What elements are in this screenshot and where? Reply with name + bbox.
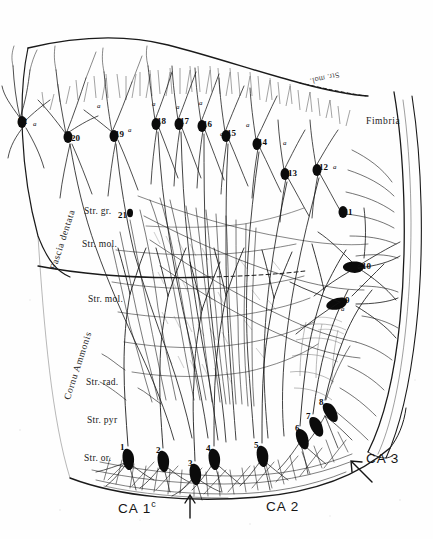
layer-label-str-gr: Str. gr. bbox=[84, 207, 111, 217]
cell-label-22: 22 bbox=[18, 117, 27, 126]
axon-mark-a: a bbox=[220, 131, 224, 138]
dentate-molecular-dendrites bbox=[2, 46, 341, 222]
mossy-fiber-bundle bbox=[70, 132, 319, 442]
cell-label-17: 17 bbox=[180, 117, 189, 126]
central-fiber-plexus bbox=[112, 196, 368, 406]
cell-label-15: 15 bbox=[227, 129, 236, 138]
cell-label-14: 14 bbox=[258, 138, 267, 147]
cell-label-19: 19 bbox=[115, 130, 124, 139]
cell-label-21: 21 bbox=[118, 211, 127, 220]
cell-label-18: 18 bbox=[157, 117, 166, 126]
cell-label-4: 4 bbox=[206, 444, 211, 453]
cell-label-3: 3 bbox=[188, 459, 193, 468]
cell-label-10: 10 bbox=[362, 262, 371, 271]
axon-mark-a: a bbox=[283, 140, 287, 147]
fimbria-fibers bbox=[334, 150, 398, 440]
layer-label-str-rad: Str. rad. bbox=[86, 378, 119, 388]
axon-mark-a: a bbox=[97, 103, 101, 110]
apical-tuft-fibers bbox=[42, 66, 350, 126]
hippocampus-diagram: Fascia dentata Cornu Ammonis Fimbria Str… bbox=[0, 0, 433, 539]
cell-label-13: 13 bbox=[288, 169, 297, 178]
cell-label-8: 8 bbox=[319, 398, 324, 407]
cell-label-1: 1 bbox=[120, 443, 125, 452]
axon-mark-a: a bbox=[33, 121, 37, 128]
axon-mark-a: a bbox=[333, 164, 337, 171]
cell-label-20: 20 bbox=[71, 134, 80, 143]
axon-mark-a: a bbox=[176, 104, 180, 111]
axon-mark-a: a bbox=[341, 306, 345, 313]
cell-label-11: 11 bbox=[344, 208, 353, 217]
layer-label-str-mol-dentate: Str. mol. bbox=[82, 240, 117, 250]
layer-label-str-or: Str. or. bbox=[84, 454, 111, 464]
cell-label-16: 16 bbox=[203, 120, 212, 129]
layer-label-str-pyr: Str. pyr bbox=[87, 416, 117, 426]
cell-label-5: 5 bbox=[254, 441, 259, 450]
subfield-ca1c-sup: c bbox=[151, 499, 157, 509]
axon-mark-a: a bbox=[152, 101, 156, 108]
cell-label-6: 6 bbox=[295, 424, 300, 433]
axon-mark-a: a bbox=[246, 122, 250, 129]
subfield-label-ca3: CA 3 bbox=[366, 452, 399, 466]
cell-label-7: 7 bbox=[306, 412, 311, 421]
region-label-fimbria: Fimbria bbox=[366, 117, 400, 127]
cell-label-9: 9 bbox=[345, 296, 350, 305]
cell-label-12: 12 bbox=[319, 163, 328, 172]
axon-mark-a: a bbox=[128, 127, 132, 134]
cell-label-2: 2 bbox=[156, 446, 161, 455]
layer-label-str-mol-ammonis: Str. mol. bbox=[88, 295, 123, 305]
axon-mark-a: a bbox=[199, 100, 203, 107]
hilus-texture bbox=[290, 317, 346, 400]
subfield-label-ca1c: CA 1c bbox=[118, 500, 157, 515]
subfield-ca1c-text: CA 1 bbox=[118, 501, 151, 516]
subfield-label-ca2: CA 2 bbox=[266, 500, 299, 514]
